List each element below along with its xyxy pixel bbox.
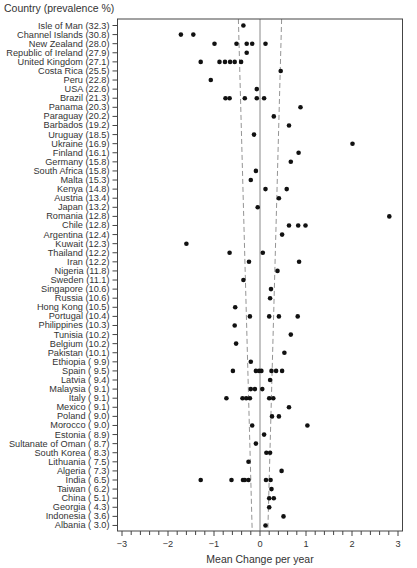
data-point xyxy=(263,187,268,192)
data-point xyxy=(262,432,267,437)
data-point xyxy=(270,414,275,419)
data-point xyxy=(277,196,282,201)
data-point xyxy=(246,478,251,483)
x-tick-label: 2 xyxy=(349,539,354,549)
data-point xyxy=(191,32,196,37)
data-point xyxy=(284,187,289,192)
data-point xyxy=(261,251,266,256)
data-point xyxy=(263,41,268,46)
x-axis-title: Mean Change per year xyxy=(206,553,314,565)
data-point xyxy=(303,223,308,228)
data-point xyxy=(268,478,273,483)
data-point xyxy=(295,314,300,319)
data-point xyxy=(184,241,189,246)
data-point xyxy=(289,160,294,165)
data-point xyxy=(269,487,274,492)
data-point xyxy=(254,96,259,101)
data-point xyxy=(254,169,259,174)
data-point xyxy=(280,232,285,237)
data-point xyxy=(296,151,301,156)
data-point xyxy=(264,478,269,483)
data-point xyxy=(247,260,252,265)
data-point xyxy=(289,332,294,337)
y-axis-title: Country (prevalence %) xyxy=(4,2,114,14)
data-point xyxy=(274,369,279,374)
x-tick-label: 1 xyxy=(303,539,308,549)
data-point xyxy=(232,323,237,328)
data-point xyxy=(296,223,301,228)
data-point xyxy=(254,87,259,92)
data-point xyxy=(287,405,292,410)
data-point xyxy=(198,478,203,483)
data-point xyxy=(267,314,272,319)
reference-lines xyxy=(238,19,281,531)
data-point xyxy=(260,387,265,392)
data-point xyxy=(234,41,239,46)
data-point xyxy=(387,214,392,219)
data-point xyxy=(287,123,292,128)
data-point xyxy=(250,423,255,428)
data-point xyxy=(275,269,280,274)
x-tick-label: −2 xyxy=(163,539,173,549)
x-axis-ticks: −3−2−10123 xyxy=(117,531,401,549)
data-point xyxy=(243,96,248,101)
x-tick-label: 0 xyxy=(257,539,262,549)
data-point xyxy=(253,387,258,392)
data-point xyxy=(287,223,292,228)
data-point xyxy=(254,441,259,446)
y-axis-ticks: Isle of Man (32.3)Channel Islands (30.8)… xyxy=(6,21,117,531)
x-tick-label: −1 xyxy=(209,539,219,549)
data-point xyxy=(223,96,228,101)
data-point xyxy=(217,60,222,65)
data-point xyxy=(249,178,254,183)
data-point xyxy=(267,396,272,401)
x-tick-label: 3 xyxy=(395,539,400,549)
data-point xyxy=(249,387,254,392)
data-point xyxy=(255,205,260,210)
data-point xyxy=(209,78,214,83)
data-point xyxy=(279,469,284,474)
data-point xyxy=(212,41,217,46)
data-point xyxy=(267,505,272,510)
x-tick-label: −3 xyxy=(117,539,127,549)
data-point xyxy=(232,60,237,65)
country-label: Albania ( 3.0) xyxy=(55,520,110,530)
lower-funnel-line xyxy=(238,19,252,531)
data-point xyxy=(241,23,246,28)
data-point xyxy=(259,369,264,374)
data-point xyxy=(244,41,249,46)
data-point xyxy=(239,60,244,65)
data-point xyxy=(298,105,303,110)
data-points xyxy=(179,23,392,528)
data-point xyxy=(248,396,253,401)
data-point xyxy=(250,41,255,46)
data-point xyxy=(269,369,274,374)
data-point xyxy=(297,260,302,265)
data-point xyxy=(350,141,355,146)
data-point xyxy=(282,350,287,355)
data-point xyxy=(267,496,272,501)
data-point xyxy=(227,96,232,101)
data-point xyxy=(305,423,310,428)
data-point xyxy=(271,396,276,401)
data-point xyxy=(262,96,267,101)
data-point xyxy=(272,496,277,501)
data-point xyxy=(233,305,238,310)
data-point xyxy=(198,60,203,65)
data-point xyxy=(277,414,282,419)
data-point xyxy=(229,478,234,483)
funnel-scatter-chart: Country (prevalence %) Isle of Man (32.3… xyxy=(0,0,417,568)
data-point xyxy=(268,378,273,383)
data-point xyxy=(246,460,251,465)
data-point xyxy=(241,278,246,283)
data-point xyxy=(280,369,285,374)
data-point xyxy=(234,341,239,346)
data-point xyxy=(231,369,236,374)
data-point xyxy=(277,314,282,319)
data-point xyxy=(227,251,232,256)
data-point xyxy=(252,132,257,137)
data-point xyxy=(223,60,228,65)
data-point xyxy=(244,51,249,56)
data-point xyxy=(248,314,253,319)
data-point xyxy=(249,360,254,365)
